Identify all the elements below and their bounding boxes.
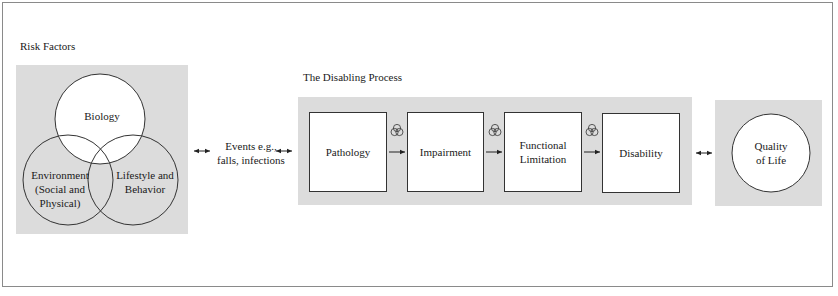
arrows-layer [0, 0, 838, 296]
three-circle-venn-icon [391, 124, 403, 135]
three-circle-venn-icon [586, 124, 598, 135]
three-circle-venn-icon [489, 124, 501, 135]
